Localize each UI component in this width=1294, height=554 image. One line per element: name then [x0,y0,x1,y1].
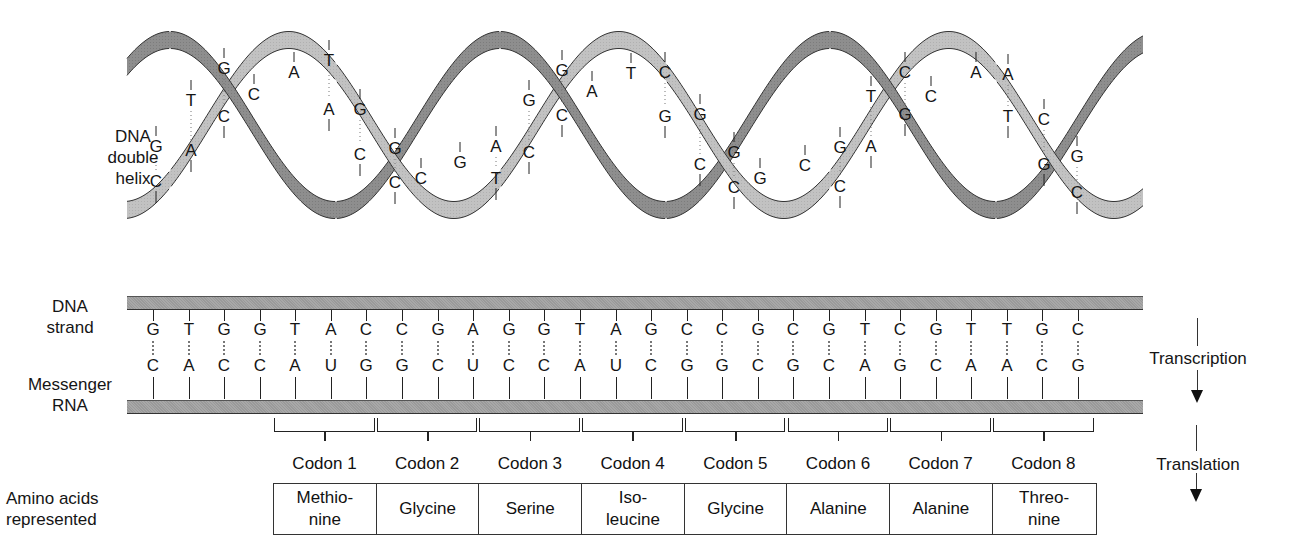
helix-base-pair: GC [693,94,706,186]
mrna-base: C [214,357,234,375]
mrna-base: G [890,357,910,375]
bond-line [936,377,937,399]
translation-arrow [1190,425,1202,535]
bond-line [722,377,723,399]
translation-label: Translation [1140,454,1256,475]
mrna-base: A [179,357,199,375]
dna-base: C [1068,321,1088,339]
label-line: RNA [10,395,130,416]
hydrogen-bond-dots [259,341,261,355]
mrna-base: A [855,357,875,375]
bond-line [260,377,261,399]
mrna-base: U [321,357,341,375]
dna-strand-label: DNA strand [20,296,120,338]
arrow-down-icon [1190,489,1202,502]
nucleotide-letter: G [453,153,466,172]
nucleotide-letter: G [727,143,740,162]
dna-base: C [712,321,732,339]
hydrogen-bond-dots [935,341,937,355]
label-line: Messenger [10,374,130,395]
nucleotide-letter: G [1037,155,1050,174]
dna-base: C [356,321,376,339]
bond-line [651,377,652,399]
nucleotide-letter: T [626,64,636,83]
dna-base: G [250,321,270,339]
nucleotide-letter: C [389,173,401,192]
helix-base-pair: TA [323,40,335,131]
hydrogen-bond-dots [615,341,617,355]
hydrogen-bond-dots [188,341,190,355]
helix-base-pair: CG [898,52,911,136]
helix-base-pair: CG [658,52,671,138]
nucleotide-letter: T [866,87,876,106]
codon-label: Codon 5 [684,454,787,474]
nucleotide-letter: C [834,177,846,196]
nucleotide-letter: C [248,85,260,104]
bond-line [473,377,474,399]
dna-strand-bar [127,296,1143,310]
dna-base: C [890,321,910,339]
dna-double-helix-label: DNA double helix [88,126,178,189]
bracket-stem [735,432,737,441]
label-line: represented [6,509,156,530]
dna-base: T [285,321,305,339]
hydrogen-bond-dots [1077,341,1079,355]
transcription-label: Transcription [1130,348,1266,369]
nucleotide-letter: C [218,107,230,126]
dna-base: T [570,321,590,339]
dna-base: T [855,321,875,339]
bond-line [793,377,794,399]
nucleotide-letter: C [1071,183,1083,202]
bond-line [366,377,367,399]
hydrogen-bond-dots [1006,341,1008,355]
label-line: helix [88,168,178,189]
nucleotide-letter: G [658,107,671,126]
mrna-base: U [606,357,626,375]
helix-base-pair: C [925,76,937,106]
bracket-stem [838,432,840,441]
amino-acids-label: Amino acids represented [6,488,156,530]
nucleotide-letter: C [354,145,366,164]
nucleotide-letter: G [555,61,568,80]
bond-line [224,377,225,399]
bond-line [509,377,510,399]
helix-base-pair: G [753,158,766,188]
label-line: DNA [88,126,178,147]
bond-line [438,377,439,399]
mrna-base: A [961,357,981,375]
bracket-stem [427,432,429,441]
dna-base: A [321,321,341,339]
hydrogen-bond-dots [792,341,794,355]
nucleotide-letter: G [898,105,911,124]
codon-label: Codon 6 [787,454,890,474]
mrna-base: C [534,357,554,375]
nucleotide-letter: T [1003,107,1013,126]
dna-double-helix-illustration: GCTAGCCATAGCGCCGATGCGCATCGGCGCGCGCTACGCA… [0,0,1294,240]
mrna-strand-bar [127,400,1143,414]
amino-acid-cell: Glycine [377,484,480,534]
nucleotide-letter: C [523,143,535,162]
bond-line [331,377,332,399]
label-line: strand [20,317,120,338]
nucleotide-letter: G [217,59,230,78]
nucleotide-letter: A [288,63,300,82]
bond-line [544,377,545,399]
nucleotide-letter: A [1002,65,1014,84]
hydrogen-bond-dots [437,341,439,355]
amino-acid-cell: Iso- leucine [582,484,685,534]
mrna-base: G [392,357,412,375]
helix-base-pair: A [586,71,598,101]
codon-bracket [788,418,889,432]
codon-label: Codon 2 [376,454,479,474]
dna-base: T [961,321,981,339]
hydrogen-bond-dots [650,341,652,355]
mrna-base: G [1068,357,1088,375]
transcription-arrow [1191,318,1203,428]
bracket-stem [324,432,326,441]
mrna-base: G [783,357,803,375]
bond-line [758,377,759,399]
label-line: DNA [20,296,120,317]
mrna-base: C [499,357,519,375]
amino-acid-cell: Glycine [685,484,788,534]
bracket-stem [941,432,943,441]
